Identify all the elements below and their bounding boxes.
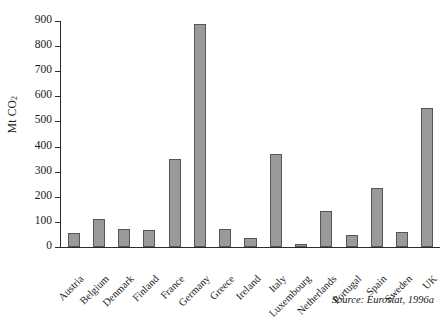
y-tick-mark bbox=[55, 46, 60, 47]
bar-slot bbox=[270, 21, 282, 247]
y-tick-mark bbox=[55, 222, 60, 223]
y-tick-mark bbox=[55, 197, 60, 198]
y-tick-mark bbox=[55, 71, 60, 72]
x-axis-spine bbox=[60, 247, 440, 248]
x-tick-label: Italy bbox=[266, 273, 287, 294]
bar-slot bbox=[118, 21, 130, 247]
bar-slot bbox=[244, 21, 256, 247]
bar bbox=[143, 230, 155, 247]
x-tick-label: UK bbox=[421, 273, 440, 292]
y-tick-label: 500 bbox=[12, 113, 52, 125]
bar bbox=[295, 244, 307, 247]
co2-emissions-bar-chart: Mt CO2 0100200300400500600700800900 Aust… bbox=[0, 0, 448, 319]
bar-slot bbox=[93, 21, 105, 247]
x-tick-label: Ireland bbox=[233, 273, 262, 302]
bar-slot bbox=[346, 21, 358, 247]
bar bbox=[118, 229, 130, 247]
bar-slot bbox=[320, 21, 332, 247]
y-tick-label: 0 bbox=[12, 239, 52, 251]
bar-slot bbox=[371, 21, 383, 247]
bar bbox=[346, 235, 358, 247]
y-tick-label: 400 bbox=[12, 139, 52, 151]
y-tick-mark bbox=[55, 96, 60, 97]
source-note-text: Source: Eurostat, 1996a bbox=[332, 294, 434, 305]
bar-slot bbox=[68, 21, 80, 247]
bar-slot bbox=[396, 21, 408, 247]
plot-area: 0100200300400500600700800900 AustriaBelg… bbox=[60, 21, 440, 247]
bar-slot bbox=[219, 21, 231, 247]
bar bbox=[194, 24, 206, 247]
y-tick-label: 800 bbox=[12, 38, 52, 50]
bar bbox=[270, 154, 282, 247]
y-tick-label: 100 bbox=[12, 214, 52, 226]
bar bbox=[68, 233, 80, 247]
y-tick-mark bbox=[55, 172, 60, 173]
bar bbox=[219, 229, 231, 247]
x-tick-label: Greece bbox=[208, 273, 237, 302]
y-tick-mark bbox=[55, 147, 60, 148]
bar-slot bbox=[194, 21, 206, 247]
bar-slot bbox=[295, 21, 307, 247]
y-tick-label: 900 bbox=[12, 13, 52, 25]
y-tick-label: 700 bbox=[12, 63, 52, 75]
bar bbox=[93, 219, 105, 247]
bar bbox=[396, 232, 408, 247]
y-tick-mark bbox=[55, 121, 60, 122]
bar-slot bbox=[143, 21, 155, 247]
y-tick-label: 600 bbox=[12, 88, 52, 100]
bar-slot bbox=[421, 21, 433, 247]
y-tick-mark bbox=[55, 247, 60, 248]
y-tick-mark bbox=[55, 21, 60, 22]
x-tick-label: Finland bbox=[131, 273, 161, 303]
bar bbox=[169, 159, 181, 247]
y-tick-label: 200 bbox=[12, 189, 52, 201]
bar bbox=[421, 108, 433, 247]
bar bbox=[371, 188, 383, 247]
bar bbox=[320, 211, 332, 247]
bar bbox=[244, 238, 256, 247]
bar-series bbox=[61, 21, 440, 247]
bar-slot bbox=[169, 21, 181, 247]
y-tick-label: 300 bbox=[12, 164, 52, 176]
